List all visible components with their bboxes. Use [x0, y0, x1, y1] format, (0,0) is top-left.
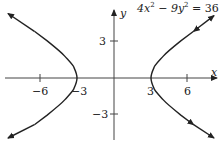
x-tick-label: 6	[184, 86, 191, 97]
y-axis-label: y	[120, 8, 126, 19]
plot-area	[0, 0, 219, 141]
y-tick-label: −3	[92, 109, 108, 120]
x-tick-label: 3	[147, 86, 154, 97]
y-tick-label: 3	[99, 36, 106, 47]
x-tick-label: −3	[71, 86, 87, 97]
x-tick-label: −6	[32, 86, 48, 97]
hyperbola-chart: y x −6 −3 3 6 3 −3 4x2 − 9y2 = 36	[0, 0, 219, 141]
x-axis-label: x	[211, 67, 217, 78]
equation-label: 4x2 − 9y2 = 36	[137, 2, 219, 15]
